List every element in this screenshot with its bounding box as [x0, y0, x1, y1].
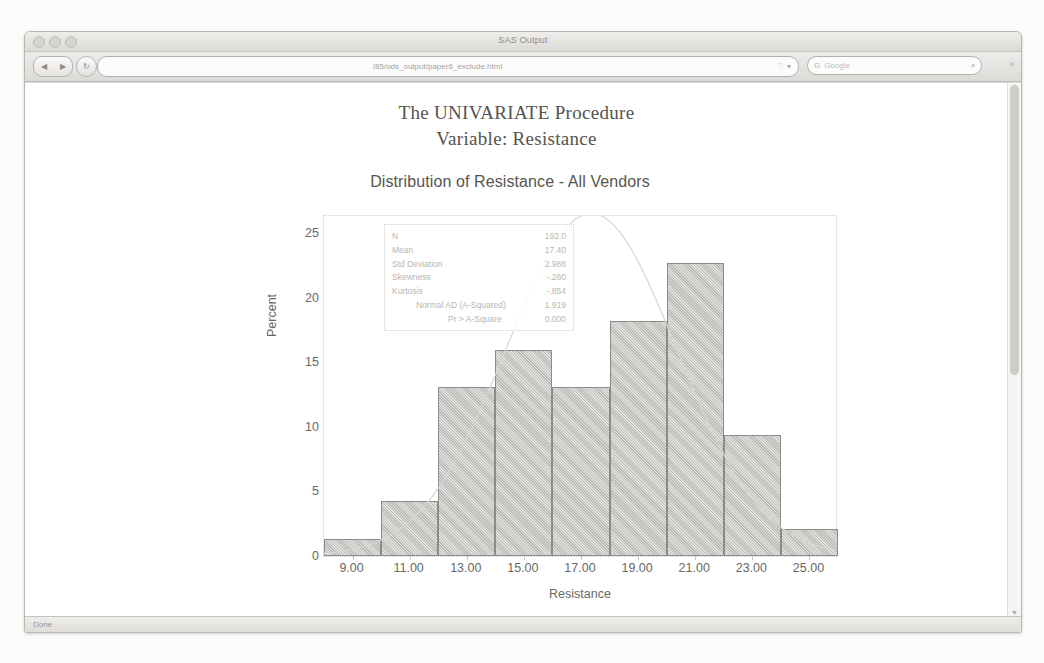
- sas-report: The UNIVARIATE Procedure Variable: Resis…: [25, 83, 1008, 616]
- page-title: The UNIVARIATE Procedure: [25, 102, 1008, 124]
- statistic-value: -.260: [537, 271, 566, 285]
- statistic-row: Mean17.40: [392, 244, 566, 258]
- statistic-value: 1.919: [535, 299, 566, 313]
- x-tick-mark: [467, 556, 468, 560]
- x-tick-mark: [581, 556, 582, 560]
- back-forward-group[interactable]: ◀ ▶: [33, 56, 73, 77]
- statistic-value: 0.000: [535, 313, 566, 327]
- window-title: SAS Output: [25, 35, 1021, 45]
- x-tick-mark: [752, 556, 753, 560]
- y-tick-label: 10: [275, 420, 319, 434]
- reload-icon[interactable]: ↻: [76, 56, 97, 77]
- histogram-bar: [724, 435, 781, 556]
- x-tick-label: 15.00: [498, 561, 548, 575]
- histogram-bar: [781, 529, 838, 556]
- statistic-label: N: [392, 230, 398, 244]
- x-tick-label: 17.00: [555, 561, 605, 575]
- chevron-down-icon[interactable]: ▾: [787, 62, 791, 71]
- x-tick-label: 11.00: [384, 561, 434, 575]
- bookmark-icon[interactable]: ♡: [777, 62, 784, 71]
- statistic-row: Pr > A-Square0.000: [392, 313, 566, 327]
- statistic-value: 17.40: [535, 244, 566, 258]
- statistic-value: -.854: [537, 285, 566, 299]
- histogram-bar: [552, 387, 609, 556]
- search-engine-icon[interactable]: G: [814, 61, 820, 70]
- statistic-row: N192.0: [392, 230, 566, 244]
- statistic-row: Normal AD (A-Squared)1.919: [392, 299, 566, 313]
- forward-icon[interactable]: ▶: [53, 62, 72, 71]
- x-tick-mark: [353, 556, 354, 560]
- y-tick-label: 0: [275, 549, 319, 563]
- address-bar-icons: ♡ ▾: [777, 62, 798, 71]
- statistic-label: Normal AD (A-Squared): [392, 299, 506, 313]
- browser-window: SAS Output ◀ ▶ ↻ ✕ ⌂ /85/ods_output/pape…: [24, 31, 1022, 633]
- statistic-label: Kurtosis: [392, 285, 423, 299]
- browser-toolbar: ◀ ▶ ↻ ✕ ⌂ /85/ods_output/paper6_exclude.…: [25, 52, 1021, 82]
- statistics-inset: N192.0Mean17.40Std Deviation2.988Skewnes…: [384, 224, 574, 331]
- x-axis-title: Resistance: [323, 587, 837, 601]
- x-tick-label: 9.00: [327, 561, 377, 575]
- chart-title: Distribution of Resistance - All Vendors: [25, 173, 995, 191]
- x-tick-mark: [695, 556, 696, 560]
- x-tick-mark: [809, 556, 810, 560]
- statistic-label: Pr > A-Square: [392, 313, 502, 327]
- y-tick-label: 25: [275, 226, 319, 240]
- x-tick-label: 19.00: [612, 561, 662, 575]
- search-input[interactable]: G Google ⌕: [807, 56, 982, 75]
- x-tick-label: 13.00: [441, 561, 491, 575]
- statistic-label: Std Deviation: [392, 258, 443, 272]
- statistic-value: 2.988: [535, 258, 566, 272]
- statistic-row: Skewness-.260: [392, 271, 566, 285]
- histogram-bar: [667, 263, 724, 556]
- statistic-row: Std Deviation2.988: [392, 258, 566, 272]
- x-tick-mark: [410, 556, 411, 560]
- y-tick-label: 15: [275, 355, 319, 369]
- histogram-bar: [610, 321, 667, 556]
- scroll-down-icon[interactable]: ▼: [1011, 609, 1018, 616]
- x-tick-label: 25.00: [783, 561, 833, 575]
- x-tick-label: 21.00: [669, 561, 719, 575]
- x-tick-mark: [638, 556, 639, 560]
- page-backdrop: SAS Output ◀ ▶ ↻ ✕ ⌂ /85/ods_output/pape…: [0, 0, 1044, 663]
- search-icon[interactable]: ⌕: [971, 61, 975, 71]
- statistic-row: Kurtosis-.854: [392, 285, 566, 299]
- statistic-label: Mean: [392, 244, 413, 258]
- histogram-figure: Distribution of Resistance - All Vendors…: [25, 173, 995, 593]
- status-text: Done: [33, 620, 52, 629]
- histogram-bar: [495, 350, 552, 556]
- statistic-label: Skewness: [392, 271, 431, 285]
- scrollbar-thumb[interactable]: [1010, 85, 1019, 375]
- x-tick-label: 23.00: [726, 561, 776, 575]
- browser-content: The UNIVARIATE Procedure Variable: Resis…: [25, 82, 1021, 616]
- back-icon[interactable]: ◀: [34, 62, 53, 71]
- statistic-value: 192.0: [535, 230, 566, 244]
- vertical-scrollbar[interactable]: ▲ ▼: [1007, 83, 1021, 616]
- url-text[interactable]: /85/ods_output/paper6_exclude.html: [98, 62, 777, 71]
- y-tick-label: 5: [275, 484, 319, 498]
- page-subtitle: Variable: Resistance: [25, 128, 1008, 150]
- window-titlebar: SAS Output: [25, 32, 1021, 52]
- search-placeholder: Google: [824, 61, 967, 70]
- plot-wrapper: Percent 0510152025 N192.0Mean17.40Std De…: [277, 209, 839, 579]
- plot-frame: N192.0Mean17.40Std Deviation2.988Skewnes…: [323, 215, 837, 557]
- histogram-bar: [381, 501, 438, 556]
- x-tick-mark: [524, 556, 525, 560]
- y-tick-label: 20: [275, 291, 319, 305]
- browser-statusbar: Done: [25, 616, 1021, 633]
- histogram-bar: [438, 387, 495, 556]
- address-bar[interactable]: /85/ods_output/paper6_exclude.html ♡ ▾: [97, 56, 799, 77]
- overflow-icon[interactable]: »: [1009, 59, 1015, 69]
- histogram-bar: [324, 539, 381, 556]
